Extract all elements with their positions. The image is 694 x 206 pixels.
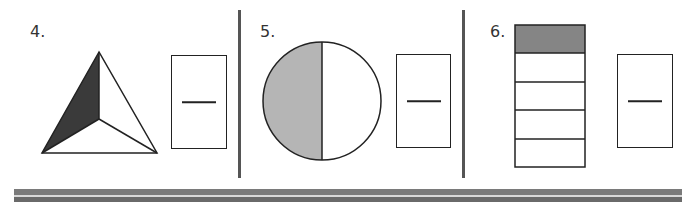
answer-box[interactable] (617, 54, 673, 148)
rectangle-figure (0, 0, 694, 206)
fraction-bar (628, 100, 662, 102)
